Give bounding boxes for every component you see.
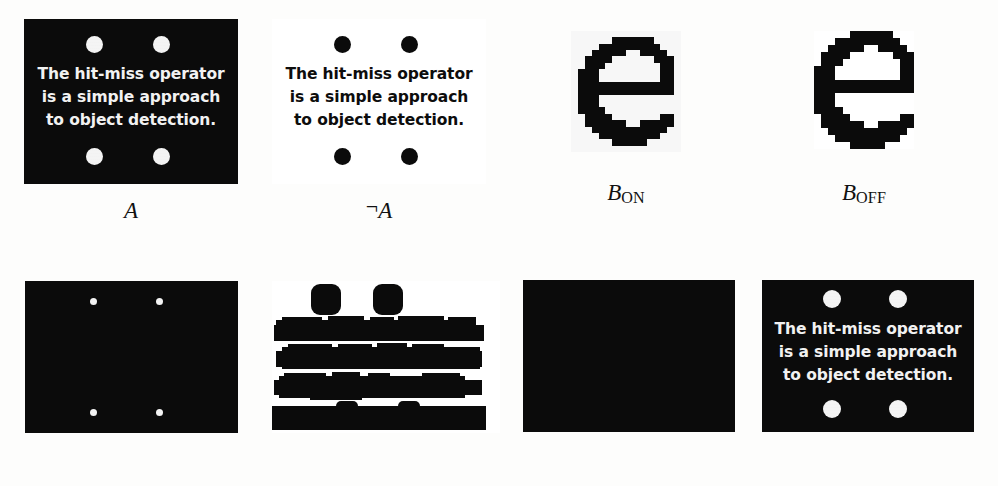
glyph-pixel: [900, 93, 907, 100]
glyph-pixel: [850, 128, 857, 135]
glyph-pixel: [885, 38, 892, 45]
glyph-pixel: [885, 31, 892, 38]
glyph-pixel: [907, 31, 914, 38]
glyph-pixel: [828, 38, 835, 45]
band-segment: [412, 344, 444, 350]
band-segment: [370, 317, 394, 325]
glyph-pixel: [843, 135, 850, 142]
glyph-pixel: [864, 45, 871, 52]
glyph-pixel: [907, 87, 914, 94]
glyph-pixel: [828, 121, 835, 128]
glyph-pixel: [843, 59, 850, 66]
glyph-pixel: [878, 31, 885, 38]
panel-overlaid: The hit-miss operator is a simple approa…: [762, 280, 974, 432]
glyph-pixel: [893, 100, 900, 107]
glyph-pixel: [907, 121, 914, 128]
glyph-pixel: [814, 31, 821, 38]
glyph-pixel: [835, 66, 842, 73]
panel-erode-A-image: [25, 281, 238, 433]
glyph-pixel: [821, 107, 828, 114]
glyph-pixel: [578, 146, 585, 152]
doc-line-2: is a simple approach: [24, 86, 238, 109]
glyph-pixel: [843, 93, 850, 100]
marker-dot: [889, 290, 907, 308]
glyph-pixel: [850, 114, 857, 121]
glyph-pixel: [821, 135, 828, 142]
glyph-pixel: [885, 52, 892, 59]
glyph-pixel: [871, 31, 878, 38]
glyph-pixel: [885, 66, 892, 73]
glyph-pixel: [878, 100, 885, 107]
glyph-pixel: [814, 142, 821, 149]
glyph-pixel: [821, 87, 828, 94]
marker-dot: [334, 148, 351, 165]
glyph-pixel: [835, 45, 842, 52]
band-segment: [328, 316, 364, 325]
caption-A-base: A: [124, 198, 138, 223]
glyph-pixel: [900, 142, 907, 149]
glyph-pixel: [864, 93, 871, 100]
glyph-pixel: [814, 114, 821, 121]
glyph-pixel: [878, 128, 885, 135]
glyph-pixel: [821, 121, 828, 128]
glyph-pixel: [900, 128, 907, 135]
glyph-pixel: [821, 100, 828, 107]
glyph-pixel: [893, 87, 900, 94]
glyph-pixel: [850, 142, 857, 149]
glyph-pixel: [814, 93, 821, 100]
glyph-pixel: [864, 128, 871, 135]
glyph-pixel: [835, 142, 842, 149]
glyph-pixel: [893, 59, 900, 66]
glyph-pixel: [871, 45, 878, 52]
glyph-pixel: [828, 87, 835, 94]
panel-B-on: BON: [571, 31, 681, 152]
glyph-pixel: [893, 31, 900, 38]
glyph-pixel: [885, 80, 892, 87]
glyph-pixel: [647, 146, 654, 152]
glyph-pixel: [907, 66, 914, 73]
panel-B-off: BOFF: [814, 31, 914, 149]
glyph-pixel: [814, 59, 821, 66]
caption-not-A: ¬A: [272, 199, 486, 223]
glyph-pixel: [857, 114, 864, 121]
glyph-pixel: [850, 52, 857, 59]
glyph-pixel: [857, 121, 864, 128]
glyph-pixel: [585, 146, 592, 152]
glyph-pixel: [900, 52, 907, 59]
glyph-pixel: [871, 52, 878, 59]
glyph-pixel: [907, 73, 914, 80]
glyph-pixel: [828, 73, 835, 80]
glyph-pixel: [843, 142, 850, 149]
glyph-pixel: [893, 121, 900, 128]
glyph-pixel: [619, 146, 626, 152]
glyph-pixel: [828, 66, 835, 73]
glyph-pixel: [885, 107, 892, 114]
glyph-pixel: [821, 80, 828, 87]
glyph-pixel: [871, 38, 878, 45]
glyph-pixel: [857, 31, 864, 38]
glyph-pixel: [885, 45, 892, 52]
marker-dot: [889, 400, 907, 418]
doc-line-2: is a simple approach: [762, 341, 974, 364]
glyph-pixel: [828, 107, 835, 114]
caption-B-on: BON: [519, 181, 733, 206]
glyph-pixel: [821, 114, 828, 121]
glyph-pixel: [835, 87, 842, 94]
glyph-pixel: [633, 146, 640, 152]
glyph-pixel: [835, 114, 842, 121]
glyph-pixel: [828, 135, 835, 142]
glyph-pixel: [900, 31, 907, 38]
glyph-pixel: [885, 93, 892, 100]
marker-dot: [153, 36, 170, 53]
glyph-pixel: [850, 80, 857, 87]
glyph-pixel: [857, 87, 864, 94]
panel-B-on-image: [571, 31, 681, 152]
glyph-pixel: [667, 146, 674, 152]
band-segment: [338, 344, 372, 350]
glyph-pixel: [835, 59, 842, 66]
structuring-element-on-glyph: [571, 31, 681, 152]
glyph-pixel: [843, 52, 850, 59]
glyph-pixel: [878, 87, 885, 94]
glyph-pixel: [592, 146, 599, 152]
glyph-pixel: [900, 59, 907, 66]
